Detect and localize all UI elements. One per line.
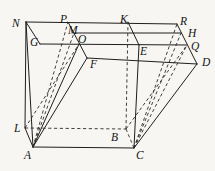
vertex-label-A: A [23, 149, 32, 161]
edge-C-R [134, 24, 177, 148]
vertex-label-F: F [89, 58, 98, 70]
vertex-label-G: G [30, 36, 39, 48]
vertex-label-O: O [78, 33, 87, 45]
vertex-label-R: R [179, 15, 187, 27]
vertex-label-C: C [136, 149, 144, 161]
edge-A-C [33, 147, 134, 148]
vertex-label-P: P [59, 13, 67, 25]
edge-C-Q [134, 45, 187, 148]
vertex-label-K: K [119, 13, 129, 25]
labels-layer: NPKRGMOEHQFDLABC [11, 13, 211, 161]
edge-B-C [126, 129, 134, 148]
parallelepiped-diagram: NPKRGMOEHQFDLABC [0, 0, 215, 171]
vertex-label-B: B [111, 131, 118, 143]
vertex-label-L: L [13, 122, 20, 134]
vertex-label-N: N [11, 17, 21, 29]
edges-layer [25, 22, 197, 148]
vertex-label-H: H [187, 27, 197, 39]
edge-C-D [134, 64, 197, 148]
vertex-label-E: E [139, 45, 147, 57]
vertex-label-Q: Q [191, 40, 200, 52]
edge-B-K [126, 22, 128, 129]
edge-A-O [33, 44, 79, 147]
geometry-figure: NPKRGMOEHQFDLABC [0, 0, 215, 171]
vertex-label-D: D [201, 56, 211, 68]
edge-L-N [25, 22, 26, 128]
edge-N-R [26, 22, 177, 24]
edge-F-D [87, 58, 197, 64]
